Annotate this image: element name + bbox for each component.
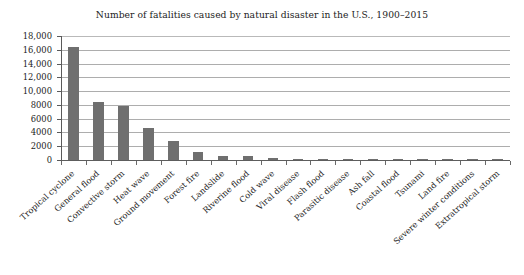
y-axis-tick <box>57 132 61 133</box>
x-axis-tick <box>186 161 187 165</box>
bar <box>492 159 503 160</box>
bar-series <box>61 36 510 160</box>
bar <box>218 156 229 160</box>
x-axis-tick <box>86 161 87 165</box>
bar <box>93 102 104 160</box>
bar <box>467 159 478 160</box>
bar <box>243 156 254 160</box>
plot-area <box>61 36 510 160</box>
y-axis-tick <box>57 64 61 65</box>
bar <box>318 159 329 160</box>
y-axis-tick-label: 0 <box>47 156 52 164</box>
x-axis-tick <box>385 161 386 165</box>
y-axis-tick <box>57 77 61 78</box>
x-axis-tick <box>211 161 212 165</box>
bar <box>168 141 179 160</box>
bar <box>343 159 354 160</box>
x-axis-tick <box>360 161 361 165</box>
x-axis-tick <box>236 161 237 165</box>
y-axis-tick <box>57 105 61 106</box>
y-axis-tick <box>57 146 61 147</box>
x-axis-tick <box>111 161 112 165</box>
y-axis-tick <box>57 50 61 51</box>
chart-title: Number of fatalities caused by natural d… <box>0 9 524 20</box>
y-axis-tick-label: 10,000 <box>23 87 52 95</box>
y-axis-tick-label: 6000 <box>31 115 52 123</box>
bar <box>293 159 304 160</box>
bar <box>68 47 79 160</box>
chart-figure: Number of fatalities caused by natural d… <box>0 0 524 275</box>
x-axis-tick <box>310 161 311 165</box>
x-axis-tick <box>136 161 137 165</box>
x-axis-labels: Tropical cycloneGeneral floodConvective … <box>0 166 524 275</box>
bar <box>118 106 129 160</box>
x-axis-tick <box>335 161 336 165</box>
bar <box>393 159 404 160</box>
bar <box>368 159 379 160</box>
bar <box>268 158 279 160</box>
x-axis-tick <box>286 161 287 165</box>
y-axis-tick-label: 16,000 <box>23 46 52 54</box>
y-axis-tick <box>57 119 61 120</box>
y-axis-tick <box>57 36 61 37</box>
bar <box>193 152 204 160</box>
y-axis-tick-label: 18,000 <box>23 32 52 40</box>
x-axis-tick <box>435 161 436 165</box>
bar <box>143 128 154 160</box>
y-axis-tick-label: 12,000 <box>23 73 52 81</box>
x-axis-tick <box>460 161 461 165</box>
y-axis-tick-label: 8000 <box>31 101 52 109</box>
y-axis-tick-label: 2000 <box>31 142 52 150</box>
bar <box>417 159 428 160</box>
x-axis-tick <box>161 161 162 165</box>
x-axis-tick <box>485 161 486 165</box>
x-axis-tick <box>61 161 62 165</box>
y-axis-tick-label: 14,000 <box>23 60 52 68</box>
x-axis-tick <box>261 161 262 165</box>
x-axis-tick <box>510 161 511 165</box>
x-axis-tick <box>410 161 411 165</box>
bar <box>442 159 453 160</box>
y-axis-tick <box>57 91 61 92</box>
y-axis-tick-label: 4000 <box>31 128 52 136</box>
y-axis-spine <box>61 36 62 161</box>
